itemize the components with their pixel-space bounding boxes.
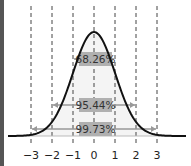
x-tick-label: −1 [65,149,81,162]
arrowhead-icon [130,102,135,108]
x-tick-label: 2 [133,149,140,162]
x-tick-label: −3 [23,149,39,162]
chart-frame: 68.26%95.44%99.73% −3−2−10123 [0,0,191,166]
x-tick-label: 3 [154,149,161,162]
interval-label: 95.44% [75,99,115,111]
interval-label: 99.73% [75,123,115,135]
x-tick-label: −2 [44,149,60,162]
x-tick-label: 1 [112,149,119,162]
area-fill [8,32,186,136]
x-tick-labels: −3−2−10123 [23,149,161,162]
x-tick-label: 0 [91,149,98,162]
arrowhead-icon [151,126,156,132]
arrowhead-icon [32,126,37,132]
arrowhead-icon [53,102,58,108]
bell-curve-chart: 68.26%95.44%99.73% −3−2−10123 [0,0,191,166]
